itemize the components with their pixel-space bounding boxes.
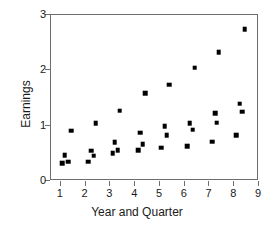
data-point (89, 148, 94, 153)
x-tick-label: 4 (122, 188, 146, 199)
data-point (167, 82, 172, 87)
data-point (237, 101, 242, 106)
data-point (217, 50, 222, 55)
data-point (159, 146, 164, 151)
x-tick-label: 9 (246, 188, 270, 199)
x-tick-mark (134, 181, 135, 186)
x-tick-mark (208, 181, 209, 186)
x-axis-label: Year and Quarter (0, 205, 274, 219)
data-point (215, 121, 220, 126)
data-point (93, 121, 98, 126)
data-point (66, 159, 71, 164)
data-point (190, 127, 195, 132)
data-point (136, 148, 141, 153)
scatter-plot-figure: Earnings 0123 123456789 Year and Quarter (0, 0, 274, 230)
data-points-layer (51, 15, 257, 179)
x-tick-mark (109, 181, 110, 186)
data-point (242, 27, 247, 32)
x-tick-mark (233, 181, 234, 186)
x-tick-label: 6 (172, 188, 196, 199)
data-point (111, 151, 116, 156)
y-tick-label: 3 (16, 9, 46, 20)
data-point (62, 153, 67, 158)
data-point (69, 128, 74, 133)
x-tick-label: 5 (147, 188, 171, 199)
x-tick-label: 1 (48, 188, 72, 199)
y-tick-label: 2 (16, 64, 46, 75)
x-tick-mark (184, 181, 185, 186)
x-tick-label: 8 (221, 188, 245, 199)
data-point (210, 139, 215, 144)
data-point (86, 159, 91, 164)
data-point (185, 144, 190, 149)
x-tick-mark (60, 181, 61, 186)
plot-area (50, 14, 258, 180)
data-point (234, 133, 239, 138)
data-point (60, 161, 65, 166)
data-point (143, 91, 148, 96)
x-tick-mark (159, 181, 160, 186)
data-point (187, 121, 192, 126)
x-tick-mark (258, 181, 259, 186)
x-tick-label: 7 (196, 188, 220, 199)
data-point (192, 65, 197, 70)
x-tick-label: 2 (73, 188, 97, 199)
data-point (118, 108, 123, 113)
data-point (240, 110, 245, 115)
x-tick-label: 3 (97, 188, 121, 199)
data-point (91, 153, 96, 158)
data-point (140, 142, 145, 147)
data-point (116, 148, 121, 153)
data-point (213, 111, 218, 116)
data-point (163, 124, 168, 129)
data-point (113, 140, 118, 145)
y-tick-label: 1 (16, 119, 46, 130)
x-tick-mark (85, 181, 86, 186)
y-tick-label: 0 (16, 175, 46, 186)
data-point (165, 133, 170, 138)
data-point (138, 131, 143, 136)
